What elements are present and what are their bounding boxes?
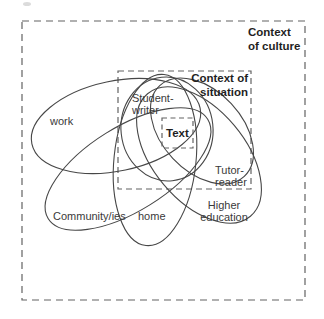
diagram-canvas: Context of culture Context of situation … bbox=[0, 0, 324, 319]
venn-context-diagram: Context of culture Context of situation … bbox=[0, 0, 324, 319]
higher-education-label-line1: Higher bbox=[208, 199, 241, 211]
text-label: Text bbox=[166, 127, 189, 139]
context-of-situation-label-line1: Context of bbox=[191, 72, 248, 84]
student-writer-label-line1: Student- bbox=[132, 92, 174, 104]
student-writer-label-line2: writer bbox=[131, 104, 159, 116]
tutor-reader-label-line2: reader bbox=[215, 176, 247, 188]
higher-education-label-line2: education bbox=[200, 211, 248, 223]
work-label: work bbox=[49, 115, 74, 127]
home-label: home bbox=[138, 210, 166, 222]
context-of-culture-label-line2: of culture bbox=[248, 40, 300, 52]
community-label: Community/ies bbox=[53, 210, 126, 222]
scan-artifact bbox=[23, 2, 31, 6]
context-of-culture-label-line1: Context bbox=[248, 26, 291, 38]
context-of-situation-label-line2: situation bbox=[200, 86, 248, 98]
tutor-reader-label-line1: Tutor- bbox=[215, 164, 244, 176]
context-of-culture-box bbox=[22, 21, 305, 300]
